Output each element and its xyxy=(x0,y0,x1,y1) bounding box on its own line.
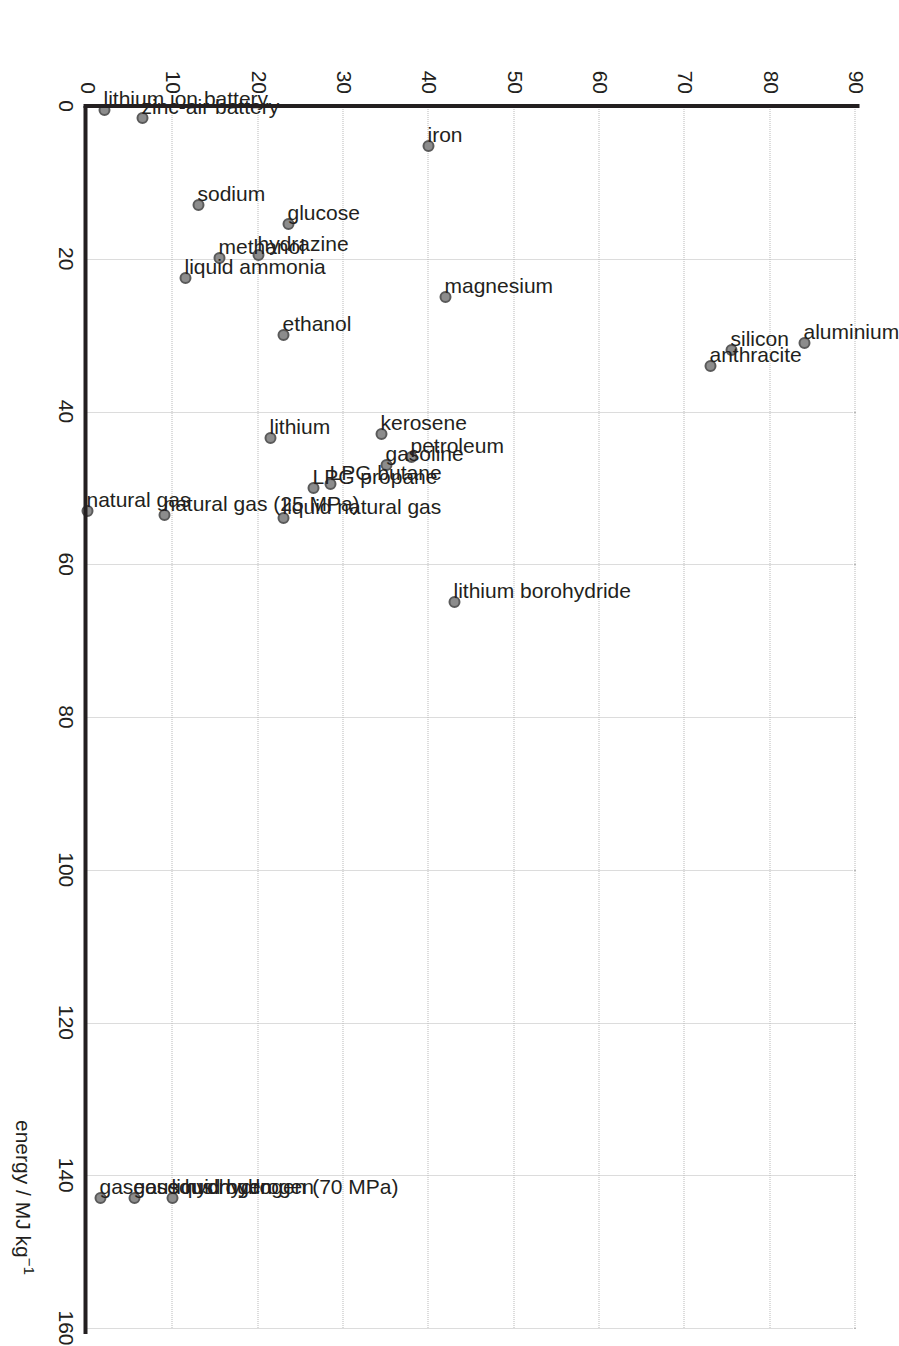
y-tick-label: 80 xyxy=(758,24,782,94)
gridline-vertical xyxy=(87,564,855,566)
y-tick-label: 30 xyxy=(331,24,355,94)
y-tick-label: 40 xyxy=(416,24,440,94)
data-point-label: gaseous hydrogen xyxy=(99,1175,272,1199)
gridline-vertical xyxy=(87,1328,855,1330)
y-tick-label: 90 xyxy=(843,24,867,94)
data-point-label: aluminium xyxy=(803,320,899,344)
data-point-label: lithium borohydride xyxy=(453,579,630,603)
gridline-horizontal xyxy=(170,106,172,1328)
x-tick-label: 60 xyxy=(53,553,77,576)
gridline-vertical xyxy=(87,870,855,872)
data-point-label: glucose xyxy=(287,201,359,225)
data-point-label: natural gas (25 MPa) xyxy=(163,492,359,516)
x-axis-line xyxy=(83,106,87,1334)
data-point-label: LPG propane xyxy=(312,465,437,489)
data-point-label: sodium xyxy=(197,182,265,206)
gridline-horizontal xyxy=(341,106,343,1328)
y-tick-label: 70 xyxy=(672,24,696,94)
x-tick-label: 80 xyxy=(53,705,77,728)
data-point-label: ethanol xyxy=(282,312,351,336)
data-point-label: kerosene xyxy=(380,411,466,435)
gridline-vertical xyxy=(87,1023,855,1025)
x-axis-title: energy / MJ kg−1 xyxy=(10,1120,37,1275)
gridline-horizontal xyxy=(597,106,599,1328)
plot-area: aluminiumsiliconanthracitelithium borohy… xyxy=(87,106,855,1328)
x-tick-label: 140 xyxy=(53,1158,77,1193)
y-tick-label: 20 xyxy=(246,24,270,94)
gridline-horizontal xyxy=(768,106,770,1328)
data-point-label: iron xyxy=(427,123,462,147)
y-tick-label: 50 xyxy=(502,24,526,94)
y-tick-label: 0 xyxy=(75,24,99,94)
gridline-horizontal xyxy=(426,106,428,1328)
x-axis-title-text: energy / MJ kg xyxy=(11,1120,34,1258)
data-point-label: anthracite xyxy=(709,343,801,367)
data-point-label: lithium xyxy=(269,415,330,439)
data-point-label: natural gas xyxy=(86,488,190,512)
gridline-vertical xyxy=(87,717,855,719)
y-tick-label: 10 xyxy=(160,24,184,94)
x-tick-label: 120 xyxy=(53,1005,77,1040)
gridline-horizontal xyxy=(256,106,258,1328)
gridline-horizontal xyxy=(682,106,684,1328)
x-axis-title-exponent: −1 xyxy=(20,1258,37,1275)
y-axis-line xyxy=(83,104,859,108)
gridline-horizontal xyxy=(853,106,855,1328)
y-tick-label: 60 xyxy=(587,24,611,94)
data-point-label: liquid ammonia xyxy=(184,255,325,279)
x-tick-label: 100 xyxy=(53,852,77,887)
x-tick-label: 20 xyxy=(53,247,77,270)
x-tick-label: 160 xyxy=(53,1310,77,1345)
gridline-vertical xyxy=(87,412,855,414)
x-tick-label: 40 xyxy=(53,400,77,423)
data-point-label: magnesium xyxy=(444,274,553,298)
x-tick-label: 0 xyxy=(53,100,77,112)
